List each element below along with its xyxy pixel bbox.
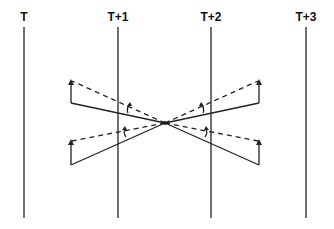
diagram-svg	[0, 0, 334, 229]
timeline-diagram: T T+1 T+2 T+3	[0, 0, 334, 229]
center-point	[163, 121, 167, 125]
arc-arrowhead-upper-right	[199, 102, 204, 106]
solid-ray-lower-right	[165, 123, 259, 165]
arrowhead-lower-right	[256, 139, 262, 145]
arc-arrowhead-upper-left	[127, 102, 132, 106]
arc-arrowhead-lower-right	[204, 126, 209, 130]
arrowhead-lower-left	[68, 139, 74, 145]
solid-ray-upper-right	[165, 103, 259, 123]
arc-arrowhead-lower-left	[122, 126, 127, 130]
